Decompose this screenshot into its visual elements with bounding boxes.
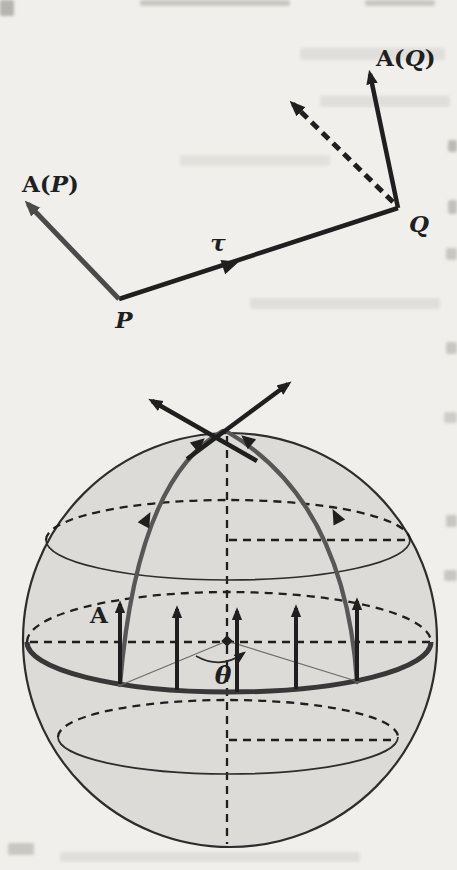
- label-vector-ap: A(P): [21, 170, 79, 197]
- sphere-transport-diagram: θ A: [23, 384, 437, 847]
- parallel-transport-figure: A(P) A(Q) τ P Q θ: [0, 0, 457, 870]
- label-theta: θ: [215, 661, 232, 690]
- label-vector-a: A: [89, 601, 109, 628]
- vector-aq-arrow: [370, 74, 398, 208]
- vector-ap-arrow: [28, 204, 119, 299]
- label-tau: τ: [210, 229, 226, 256]
- tau-direction-arrowhead: [220, 255, 241, 275]
- label-vector-aq: A(Q): [375, 44, 436, 71]
- page-background: A(P) A(Q) τ P Q θ: [0, 0, 457, 870]
- label-point-p: P: [114, 306, 133, 333]
- label-point-q: Q: [409, 210, 429, 237]
- flat-transport-diagram: A(P) A(Q) τ P Q: [21, 44, 436, 333]
- path-pq-line: [119, 208, 398, 299]
